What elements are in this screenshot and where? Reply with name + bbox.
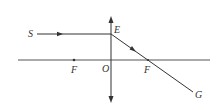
lens-diagram: S E O F F G [0, 0, 218, 110]
lens-top-arrow-icon [109, 16, 114, 23]
label-ray-end: G [195, 90, 202, 100]
lens-bottom-arrow-icon [109, 96, 114, 103]
focus-left-dot [73, 59, 76, 62]
refracted-ray-arrow-icon [130, 46, 137, 52]
label-focus-right: F [144, 65, 150, 75]
diagram-svg [0, 0, 218, 110]
label-optical-center: O [102, 64, 109, 74]
label-incidence-point: E [114, 25, 120, 35]
label-focus-left: F [71, 65, 77, 75]
focus-right-dot [147, 59, 149, 61]
incident-ray-arrow-icon [57, 32, 63, 36]
refracted-ray [111, 34, 193, 92]
label-source: S [28, 29, 33, 39]
